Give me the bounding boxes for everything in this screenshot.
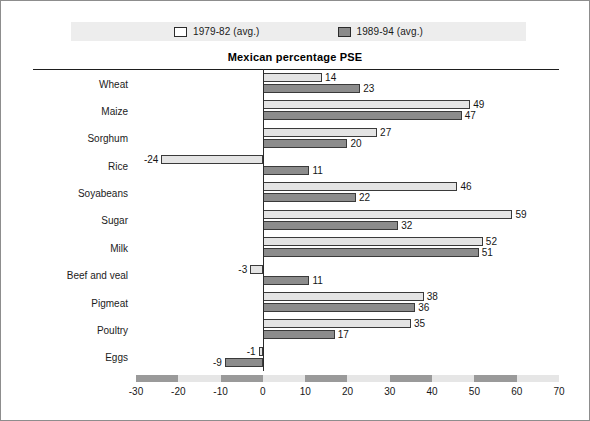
bar-value-label: 38	[427, 292, 438, 301]
bar-value-label: 20	[351, 139, 362, 148]
bar-group: 4947	[136, 97, 559, 124]
x-tick-label: -30	[129, 386, 143, 397]
category-label: Wheat	[33, 78, 128, 89]
bar-row: Rice-2411	[33, 152, 559, 179]
bar-row: Wheat1423	[33, 70, 559, 97]
bar-1979-82	[263, 128, 377, 137]
axis-band-segment	[474, 375, 516, 382]
bar-value-label: 52	[486, 237, 497, 246]
bar-value-label: 46	[460, 182, 471, 191]
bar-value-label: 47	[465, 111, 476, 120]
x-tick-label: -20	[171, 386, 185, 397]
bar-group: 3517	[136, 316, 559, 343]
bar-value-label: 36	[418, 303, 429, 312]
chart-frame: 1979-82 (avg.) 1989-94 (avg.) Mexican pe…	[0, 0, 590, 421]
axis-band-segment	[136, 375, 178, 382]
bar-value-label: -24	[144, 155, 158, 164]
bar-row: Sugar5932	[33, 207, 559, 234]
bar-row: Soyabeans4622	[33, 179, 559, 206]
bar-group: 3836	[136, 289, 559, 316]
axis-band-segment	[305, 375, 347, 382]
bar-1979-82	[263, 210, 513, 219]
legend-label-1989-94: 1989-94 (avg.)	[357, 26, 423, 37]
category-label: Soyabeans	[33, 188, 128, 199]
bar-value-label: 27	[380, 128, 391, 137]
x-tick-label: 30	[384, 386, 395, 397]
bar-1989-94	[263, 193, 356, 202]
bar-value-label: 17	[338, 330, 349, 339]
category-label: Poultry	[33, 324, 128, 335]
bar-row: Sorghum2720	[33, 125, 559, 152]
category-label: Pigmeat	[33, 297, 128, 308]
plot-area: Wheat1423Maize4947Sorghum2720Rice-2411So…	[33, 69, 559, 371]
bar-group: -1-9	[136, 344, 559, 371]
chart-title: Mexican percentage PSE	[1, 51, 589, 63]
bar-group: -2411	[136, 152, 559, 179]
bar-1989-94	[263, 166, 310, 175]
zero-axis-line	[263, 69, 264, 371]
bar-1989-94	[263, 248, 479, 257]
category-label: Sugar	[33, 215, 128, 226]
category-label: Eggs	[33, 352, 128, 363]
bar-1989-94	[225, 358, 263, 367]
x-tick-label: 10	[300, 386, 311, 397]
bar-row: Eggs-1-9	[33, 344, 559, 371]
bar-row: Poultry3517	[33, 316, 559, 343]
bar-1989-94	[263, 330, 335, 339]
bar-value-label: 32	[401, 221, 412, 230]
bar-value-label: 11	[312, 166, 322, 175]
x-tick-label: -10	[213, 386, 227, 397]
x-tick-label: 40	[427, 386, 438, 397]
category-label: Rice	[33, 160, 128, 171]
bar-1989-94	[263, 111, 462, 120]
category-label: Beef and veal	[33, 270, 128, 281]
x-tick-label: 70	[553, 386, 564, 397]
bar-value-label: 51	[482, 248, 493, 257]
bar-group: 2720	[136, 125, 559, 152]
legend-label-1979-82: 1979-82 (avg.)	[193, 26, 259, 37]
bar-rows: Wheat1423Maize4947Sorghum2720Rice-2411So…	[33, 70, 559, 371]
x-tick-label: 0	[260, 386, 266, 397]
bar-row: Pigmeat3836	[33, 289, 559, 316]
bar-group: 4622	[136, 179, 559, 206]
bar-value-label: 49	[473, 100, 484, 109]
bar-1979-82	[263, 182, 458, 191]
bar-1979-82	[161, 155, 263, 164]
bar-value-label: -1	[247, 347, 256, 356]
bar-1989-94	[263, 303, 415, 312]
bar-value-label: 22	[359, 193, 370, 202]
bar-group: -311	[136, 262, 559, 289]
bar-value-label: 11	[312, 276, 322, 285]
legend-item-1979-82: 1979-82 (avg.)	[174, 26, 259, 37]
x-tick-label: 50	[469, 386, 480, 397]
bar-1989-94	[263, 276, 310, 285]
bar-group: 1423	[136, 70, 559, 97]
legend-swatch-icon-1979-82	[174, 27, 187, 37]
bar-1979-82	[250, 265, 263, 274]
axis-band-segment	[221, 375, 263, 382]
x-tick-label: 60	[511, 386, 522, 397]
legend-item-1989-94: 1989-94 (avg.)	[338, 26, 423, 37]
bar-value-label: 35	[414, 319, 425, 328]
bar-1979-82	[263, 237, 483, 246]
bar-value-label: -9	[213, 358, 222, 367]
axis-band-segment	[390, 375, 432, 382]
bar-1979-82	[263, 292, 424, 301]
bar-1989-94	[263, 221, 398, 230]
x-tick-label: 20	[342, 386, 353, 397]
bar-value-label: 14	[325, 73, 336, 82]
category-label: Maize	[33, 106, 128, 117]
bar-1989-94	[263, 139, 348, 148]
bar-1979-82	[263, 319, 411, 328]
bar-value-label: -3	[238, 265, 247, 274]
bar-group: 5932	[136, 207, 559, 234]
bar-1979-82	[263, 73, 322, 82]
bar-1979-82	[263, 100, 470, 109]
bar-row: Maize4947	[33, 97, 559, 124]
bar-value-label: 59	[515, 210, 526, 219]
bar-1989-94	[263, 84, 360, 93]
category-label: Sorghum	[33, 133, 128, 144]
category-label: Milk	[33, 242, 128, 253]
bar-value-label: 23	[363, 84, 374, 93]
x-axis: -30-20-10010203040506070	[136, 375, 559, 415]
